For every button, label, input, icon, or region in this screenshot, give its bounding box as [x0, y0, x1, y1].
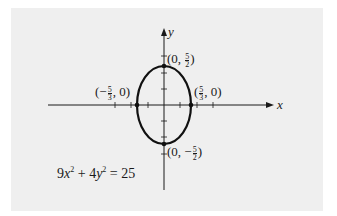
vertex-top: [162, 64, 167, 69]
equation-label: 9x2 + 4y2 = 25: [57, 166, 135, 181]
vertex-bottom: [162, 142, 167, 147]
vertex-left: [135, 103, 140, 108]
x-axis-label: x: [277, 98, 283, 111]
label-top-vertex: (0, 52): [167, 52, 195, 68]
x-axis-arrow-icon: [266, 102, 274, 108]
label-left-vertex: (−53, 0): [95, 85, 130, 101]
label-right-vertex: (53, 0): [194, 85, 222, 101]
y-axis-arrow-icon: [161, 28, 167, 36]
y-axis-label: y: [168, 25, 174, 38]
vertex-right: [189, 103, 194, 108]
label-bottom-vertex: (0, −52): [167, 145, 202, 161]
